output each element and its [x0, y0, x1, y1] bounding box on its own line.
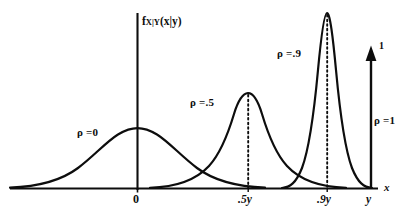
x-tick-label-1: .9y — [317, 194, 331, 206]
x-axis-name: x — [384, 182, 390, 193]
impulse-height-label: 1 — [379, 41, 384, 51]
y-axis-label-subscript: X|Y — [146, 17, 160, 27]
x-tick-label-2: y — [366, 194, 371, 206]
x-tick-label-0: .5y — [238, 194, 252, 206]
y-axis-label: fX|Y(x|y) — [142, 16, 182, 28]
conditional-density-figure: fX|Y(x|y) ρ =0 ρ =.5 ρ =.9 ρ =1 1 0 .5y … — [0, 0, 399, 218]
x-tick-label-origin: 0 — [133, 193, 139, 205]
annotation-rho-1: ρ =1 — [374, 115, 395, 126]
annotation-rho-0: ρ =0 — [77, 127, 98, 138]
y-axis-label-argument: (x|y) — [160, 15, 182, 27]
annotation-rho-5: ρ =.5 — [190, 97, 214, 108]
plot-canvas — [0, 0, 399, 218]
impulse-arrow-head-rho-1 — [366, 46, 377, 62]
annotation-rho-9: ρ =.9 — [277, 48, 301, 59]
